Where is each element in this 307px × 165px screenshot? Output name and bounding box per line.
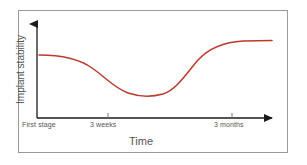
implant-stability-chart: First stage 3 weeks 3 months Time Implan… — [0, 0, 307, 165]
implant-stability-curve — [39, 41, 272, 97]
x-tick-label-first-stage: First stage — [22, 121, 56, 128]
x-axis-title: Time — [129, 135, 153, 147]
chart-plot-area — [0, 0, 307, 165]
y-axis-title: Implant stability — [15, 22, 26, 118]
x-tick-label-3-weeks: 3 weeks — [90, 121, 116, 128]
x-tick-label-3-months: 3 months — [214, 121, 244, 128]
